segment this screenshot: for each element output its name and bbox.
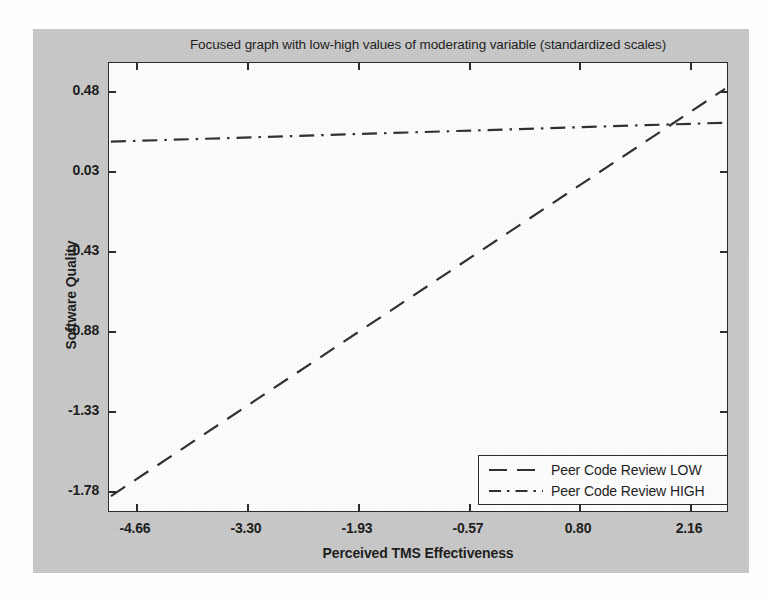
series-line-high <box>111 123 725 142</box>
xtick-label: -1.93 <box>342 520 373 536</box>
xtick-mark <box>579 504 581 512</box>
ytick-mark <box>108 171 116 173</box>
xtick-mark-top <box>579 62 581 70</box>
chart-title: Focused graph with low-high values of mo… <box>108 37 748 52</box>
ytick-mark <box>108 331 116 333</box>
xtick-mark-top <box>247 62 249 70</box>
xtick-mark <box>690 504 692 512</box>
ytick-mark-right <box>720 251 728 253</box>
ytick-mark-right <box>720 411 728 413</box>
figure-canvas: Focused graph with low-high values of mo… <box>33 29 749 573</box>
plot-lines <box>109 63 727 511</box>
ytick-mark <box>108 411 116 413</box>
xtick-mark <box>469 504 471 512</box>
legend-label-low: Peer Code Review LOW <box>551 462 702 478</box>
xtick-label: -3.30 <box>231 520 262 536</box>
ytick-label: -1.33 <box>41 402 99 418</box>
xtick-label: 0.80 <box>565 520 591 536</box>
xtick-mark-top <box>690 62 692 70</box>
ytick-mark <box>108 491 116 493</box>
xtick-mark <box>358 504 360 512</box>
xtick-mark-top <box>136 62 138 70</box>
ytick-mark <box>108 251 116 253</box>
xtick-mark-top <box>358 62 360 70</box>
xtick-label: -4.66 <box>120 520 151 536</box>
ytick-mark <box>108 91 116 93</box>
xtick-label: -0.57 <box>453 520 484 536</box>
legend-sample-dashed-icon <box>487 463 545 477</box>
plot-area <box>108 62 728 512</box>
ytick-mark-right <box>720 91 728 93</box>
legend-sample-dashdot-icon <box>487 484 545 498</box>
series-line-low <box>111 89 725 496</box>
xtick-mark <box>136 504 138 512</box>
ytick-mark-right <box>720 171 728 173</box>
legend-item-low[interactable]: Peer Code Review LOW <box>479 459 727 480</box>
scanned-page: Focused graph with low-high values of mo… <box>0 0 771 599</box>
xtick-mark <box>247 504 249 512</box>
ytick-mark-right <box>720 331 728 333</box>
legend-item-high[interactable]: Peer Code Review HIGH <box>479 480 727 501</box>
y-axis-label: Software Quality <box>63 195 79 395</box>
legend-label-high: Peer Code Review HIGH <box>551 483 705 499</box>
x-axis-label: Perceived TMS Effectiveness <box>108 545 728 561</box>
ytick-label: -1.78 <box>41 482 99 498</box>
ytick-label: 0.03 <box>41 162 99 178</box>
xtick-mark-top <box>469 62 471 70</box>
xtick-label: 2.16 <box>676 520 702 536</box>
legend[interactable]: Peer Code Review LOW Peer Code Review HI… <box>478 455 728 505</box>
ytick-label: 0.48 <box>41 82 99 98</box>
